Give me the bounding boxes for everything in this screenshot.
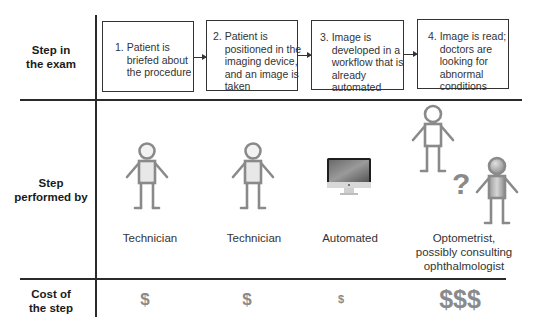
computer-icon xyxy=(326,157,372,197)
step-box-4: 4. Image is read; doctors are looking fo… xyxy=(417,19,509,89)
step-box-3: 3. Image is developed in a workflow that… xyxy=(311,20,404,90)
step-box-2: 2. Patient is positioned in the imaging … xyxy=(206,20,298,91)
performer-label-2: Technician xyxy=(214,231,294,245)
step-text-1: 1. Patient is briefed about the procedur… xyxy=(115,41,191,79)
vertical-divider xyxy=(95,15,97,317)
step-box-1: 1. Patient is briefed about the procedur… xyxy=(102,21,194,92)
person-icon xyxy=(408,103,458,175)
person-icon xyxy=(122,140,172,212)
arrow-3-4 xyxy=(404,54,417,55)
row-divider-2 xyxy=(20,278,506,280)
step-text-4: 4. Image is read; doctors are looking fo… xyxy=(428,30,506,93)
arrow-2-3 xyxy=(298,55,311,56)
step-text-3: 3. Image is developed in a workflow that… xyxy=(320,31,403,94)
row-label-step: Step in the exam xyxy=(10,43,92,71)
arrow-1-2 xyxy=(194,57,206,58)
row-divider-1 xyxy=(20,99,522,101)
row-label-cost: Cost of the step xyxy=(10,287,92,315)
step-text-2: 2. Patient is positioned in the imaging … xyxy=(213,30,301,93)
question-mark-icon: ? xyxy=(452,168,470,200)
performer-label-3: Automated xyxy=(310,231,390,245)
cost-step-3: $ xyxy=(326,293,356,305)
cost-step-4: $$$ xyxy=(420,285,500,314)
performer-label-4: Optometrist, possibly consulting ophthal… xyxy=(405,231,523,273)
performer-label-1: Technician xyxy=(110,231,190,245)
cost-step-2: $ xyxy=(232,290,262,310)
person-icon xyxy=(228,140,278,212)
row-label-performer: Step performed by xyxy=(10,176,92,204)
cost-step-1: $ xyxy=(130,290,160,310)
person-shaded-icon xyxy=(472,155,522,227)
